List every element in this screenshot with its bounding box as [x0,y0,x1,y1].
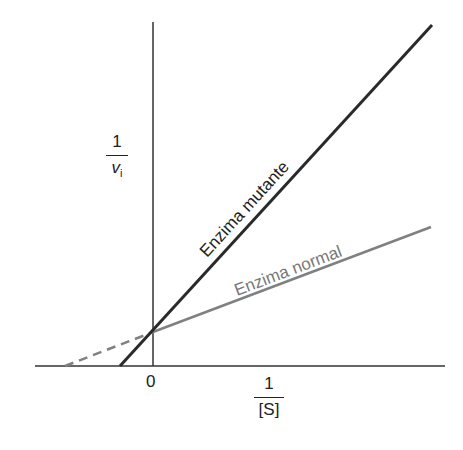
normal-enzyme-line [153,227,431,332]
x-axis-label-numerator: 1 [254,374,284,394]
y-axis-label-denominator: vi [106,158,128,179]
normal-enzyme-extrapolation [65,332,153,366]
y-axis-label-numerator: 1 [106,132,128,152]
mutant-enzyme-line [120,25,432,366]
mutant-label: Enzima mutante [196,157,293,260]
normal-label: Enzima normal [232,242,345,300]
origin-tick-label: 0 [146,372,155,392]
fraction-bar [106,155,128,156]
y-axis-label: 1 vi [106,132,128,179]
x-axis-label-denominator: [S] [254,400,284,420]
x-axis-label: 1 [S] [254,374,284,420]
plot-canvas: Enzima mutante Enzima normal [0,0,463,450]
fraction-bar [254,397,284,398]
